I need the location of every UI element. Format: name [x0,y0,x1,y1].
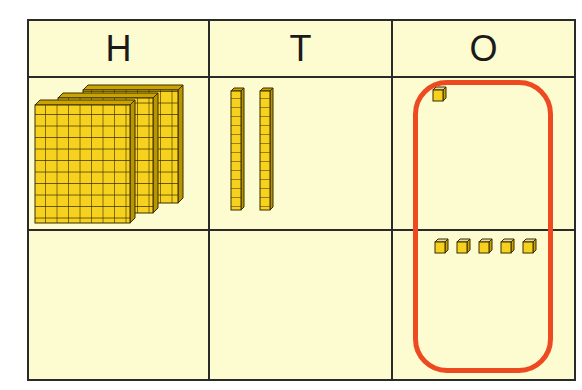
ten-rod-icon [231,88,244,210]
hundred-flat-icon [35,100,135,223]
ones-highlight-loop [413,80,553,373]
ten-rod-icon [260,88,273,210]
